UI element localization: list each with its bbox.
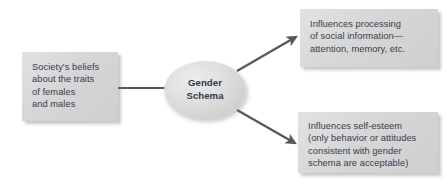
node-gender-schema: Gender Schema	[164, 61, 246, 119]
node-influences-self-esteem-label: Influences self-esteem (only behavior or…	[308, 120, 429, 170]
node-influences-processing: Influences processing of social informat…	[300, 9, 438, 67]
node-influences-self-esteem: Influences self-esteem (only behavior or…	[298, 112, 438, 173]
gender-schema-diagram: Society's beliefs about the traits of fe…	[0, 0, 447, 184]
node-society-beliefs-label: Society's beliefs about the traits of fe…	[32, 61, 109, 111]
connector-schema-to-outcome-bottom	[237, 110, 293, 142]
node-influences-processing-label: Influences processing of social informat…	[310, 18, 429, 55]
connector-schema-to-outcome-top	[237, 38, 294, 71]
node-gender-schema-label: Gender Schema	[186, 77, 223, 102]
node-society-beliefs: Society's beliefs about the traits of fe…	[22, 52, 118, 121]
